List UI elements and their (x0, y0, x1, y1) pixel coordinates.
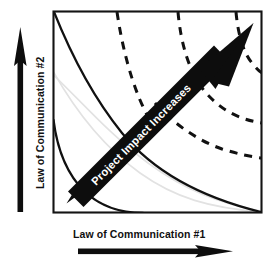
y-axis-label: Law of Communication #2 (34, 57, 46, 189)
up-arrow-icon (14, 27, 27, 212)
x-axis-group: Law of Communication #1 (73, 228, 233, 258)
right-arrow-head (195, 245, 233, 258)
right-arrow-shaft (78, 249, 204, 255)
x-axis-label: Law of Communication #1 (73, 228, 205, 240)
communication-law-diagram: Project Impact Increases Law of Communic… (0, 0, 276, 268)
diagram-root: Project Impact Increases Law of Communic… (0, 0, 276, 268)
y-axis-group: Law of Communication #2 (14, 27, 46, 212)
up-arrow-head (14, 27, 27, 66)
right-arrow-icon (78, 245, 233, 258)
up-arrow-shaft (18, 55, 24, 212)
